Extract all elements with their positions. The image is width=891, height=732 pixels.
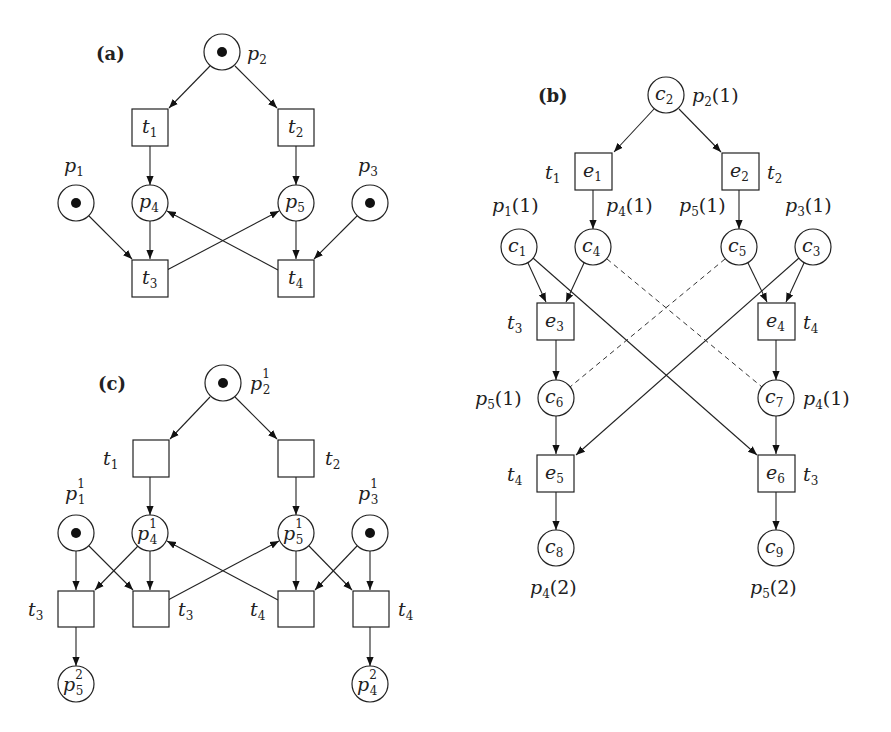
condition-place-label: p5(2) — [750, 576, 797, 601]
arc-c4-e3 — [566, 263, 584, 302]
svg-text:p11: p11 — [65, 477, 85, 507]
arc — [309, 546, 352, 590]
place-p5: p5 — [278, 185, 314, 221]
place-p5-2: p25 — [58, 666, 94, 702]
transition-t3-copy-a: t3 — [28, 591, 94, 627]
svg-text:t2: t2 — [325, 447, 340, 472]
transition-t2: t2 — [278, 440, 340, 477]
arc-p3-t4 — [314, 216, 357, 259]
event-transition-label: t3 — [507, 311, 522, 336]
arc — [235, 397, 277, 439]
place-p4-2: p24 — [352, 666, 388, 702]
transition-t4-copy-a: t4 — [250, 591, 314, 627]
token-icon — [218, 378, 228, 388]
panel-c-label: (c) — [98, 373, 126, 394]
arc-p2-t1 — [169, 66, 210, 108]
arc — [170, 397, 210, 439]
arc-c2-e2 — [679, 109, 721, 152]
place-label: p3 — [358, 154, 378, 179]
condition-c8: c8 p4(2) — [530, 530, 577, 601]
place-p2: p2 — [204, 34, 267, 70]
event-transition-label: t1 — [545, 161, 560, 186]
condition-place-label: p5(1) — [475, 387, 522, 412]
event-e3: e3 t3 — [507, 303, 574, 340]
condition-c9: c9 p5(2) — [750, 530, 797, 601]
token-icon — [217, 47, 227, 57]
condition-place-label: p1(1) — [492, 194, 539, 219]
arc-p2-t2 — [235, 66, 277, 108]
place-p5-1: p15 — [278, 515, 314, 551]
event-e5: e5 t4 — [507, 455, 574, 492]
svg-text:t1: t1 — [103, 447, 118, 472]
condition-c7: c7 p4(1) — [758, 380, 850, 416]
event-transition-label: t2 — [767, 161, 782, 186]
condition-place-label: p4(1) — [803, 387, 850, 412]
token-icon — [71, 528, 81, 538]
token-icon — [365, 528, 375, 538]
svg-text:t4: t4 — [398, 598, 414, 623]
transition-t1: t1 — [103, 440, 169, 477]
panel-a-label: (a) — [96, 43, 125, 64]
arc-p1-t3 — [89, 216, 132, 259]
arc-c3-e4 — [786, 263, 804, 302]
condition-place-label: p5(1) — [679, 194, 726, 219]
event-e6: e6 t3 — [758, 455, 818, 492]
condition-place-label: p2(1) — [692, 84, 739, 109]
svg-text:p13: p13 — [358, 477, 378, 507]
dashed-link-c4-c7 — [607, 259, 762, 387]
arc-c5-e4 — [748, 263, 767, 302]
condition-place-label: p4(2) — [530, 576, 577, 601]
event-transition-label: t4 — [803, 311, 819, 336]
event-e2: e2 t2 — [722, 153, 782, 190]
arc-c3-e5 — [576, 258, 799, 455]
arc-c1-e6 — [533, 258, 757, 455]
transition-t1: t1 — [132, 109, 168, 146]
token-icon — [71, 198, 81, 208]
event-transition-label: t4 — [507, 463, 523, 488]
place-p3-1: p13 — [352, 477, 388, 551]
panel-b-label: (b) — [538, 85, 568, 106]
svg-text:t3: t3 — [178, 598, 193, 623]
transition-t2: t2 — [278, 109, 314, 146]
place-p1-1: p11 — [58, 477, 94, 551]
condition-c1: c1 p1(1) — [492, 194, 539, 265]
event-e1: e1 t1 — [545, 153, 612, 190]
arc — [95, 546, 138, 590]
place-p2-1: p12 — [205, 365, 270, 401]
panel-c: (c) p12 p11 p13 — [28, 365, 414, 702]
condition-c6: c6 p5(1) — [475, 380, 574, 416]
place-p4: p4 — [132, 185, 168, 221]
place-p3: p3 — [352, 154, 388, 221]
svg-text:t4: t4 — [250, 598, 266, 623]
dashed-link-c5-c6 — [570, 259, 725, 387]
place-label: p2 — [247, 42, 267, 67]
arc — [89, 546, 133, 590]
panel-a: (a) p2 p1 p3 p4 — [58, 34, 388, 297]
arc-c1-e3 — [528, 263, 546, 302]
transition-t3-copy-b: t3 — [133, 591, 193, 627]
svg-text:t3: t3 — [28, 598, 43, 623]
event-transition-label: t3 — [803, 463, 818, 488]
place-p1: p1 — [58, 154, 94, 221]
svg-text:p12: p12 — [250, 367, 270, 397]
transition-t4-copy-b: t4 — [353, 591, 414, 627]
transition-t3: t3 — [132, 260, 168, 297]
arc — [315, 546, 357, 590]
condition-c5: c5 p5(1) — [679, 194, 757, 265]
panel-b: (b) c2 p2(1) c1 p1(1) — [475, 77, 850, 601]
event-e4: e4 t4 — [758, 303, 819, 340]
transition-t4: t4 — [278, 260, 314, 297]
place-label: p1 — [64, 154, 84, 179]
place-p4-1: p14 — [132, 515, 168, 551]
condition-c4: c4 p4(1) — [575, 194, 653, 265]
token-icon — [365, 198, 375, 208]
arc-c2-e1 — [614, 109, 654, 152]
condition-place-label: p4(1) — [606, 194, 653, 219]
condition-c3: c3 p3(1) — [785, 194, 832, 265]
petri-net-figure: (a) p2 p1 p3 p4 — [0, 0, 891, 732]
condition-c2: c2 p2(1) — [648, 77, 739, 113]
condition-place-label: p3(1) — [785, 194, 832, 219]
